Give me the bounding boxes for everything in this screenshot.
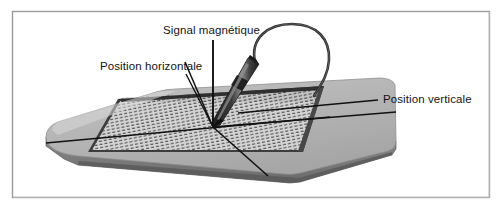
label-position-horizontale: Position horizontale (100, 61, 202, 73)
label-signal-magnetique: Signal magnétique (163, 25, 260, 37)
figure-container: Signal magnétique Position horizontale P… (0, 0, 502, 213)
label-position-verticale: Position verticale (383, 94, 472, 106)
